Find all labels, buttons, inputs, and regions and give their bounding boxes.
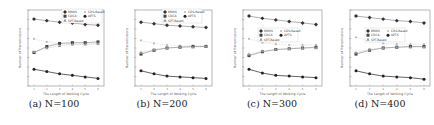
svg-text:SPT-Based: SPT-Based [168, 19, 184, 23]
svg-text:Number of Transmissions: Number of Transmissions [18, 28, 22, 68]
chart-panel-c: 123456The Length of Working CycleNumber … [218, 0, 326, 125]
svg-text:The Length of Working Cycle: The Length of Working Cycle [42, 92, 89, 96]
svg-text:6: 6 [423, 88, 425, 91]
chart-panel-a: 123456The Length of Working CycleNumber … [0, 0, 108, 125]
svg-text:Number of Transmissions: Number of Transmissions [233, 28, 237, 68]
svg-text:4: 4 [179, 88, 181, 91]
panel-caption: (c) N=300 [218, 98, 326, 109]
svg-text:3: 3 [382, 88, 384, 91]
svg-text:4: 4 [396, 88, 398, 91]
chart-panel-d: 123456The Length of Working CycleNumber … [326, 0, 434, 125]
svg-text:3: 3 [59, 88, 61, 91]
chart-panel-b: 123456The Length of Working CycleNumber … [108, 0, 216, 125]
svg-text:1: 1 [33, 88, 35, 91]
svg-text:The Length of Working Cycle: The Length of Working Cycle [366, 92, 413, 96]
svg-text:6: 6 [205, 88, 207, 91]
svg-text:SPT-Based: SPT-Based [264, 38, 280, 42]
svg-text:3: 3 [166, 88, 168, 91]
svg-text:5: 5 [192, 88, 194, 91]
svg-text:2: 2 [262, 88, 264, 91]
panel-caption: (d) N=400 [326, 98, 434, 109]
svg-text:6: 6 [315, 88, 317, 91]
panel-caption: (b) N=200 [108, 98, 216, 109]
svg-text:1: 1 [248, 88, 250, 91]
svg-text:5: 5 [302, 88, 304, 91]
svg-text:4: 4 [72, 88, 74, 91]
svg-text:4: 4 [288, 88, 290, 91]
svg-text:SPT-Based: SPT-Based [371, 38, 387, 42]
svg-text:APTS: APTS [88, 14, 96, 18]
svg-text:SPT-Based: SPT-Based [68, 19, 84, 23]
svg-text:The Length of Working Cycle: The Length of Working Cycle [259, 92, 306, 96]
svg-text:APTS: APTS [284, 33, 292, 37]
svg-text:2: 2 [369, 88, 371, 91]
svg-text:5: 5 [410, 88, 412, 91]
svg-text:3: 3 [275, 88, 277, 91]
svg-text:APTS: APTS [391, 33, 399, 37]
svg-text:Number of Transmissions: Number of Transmissions [125, 28, 129, 68]
svg-text:Number of Transmissions: Number of Transmissions [340, 28, 344, 68]
svg-text:2: 2 [46, 88, 48, 91]
svg-text:1: 1 [355, 88, 357, 91]
svg-text:APTS: APTS [188, 14, 196, 18]
svg-text:5: 5 [84, 88, 86, 91]
panel-caption: (a) N=100 [0, 98, 108, 109]
svg-text:The Length of Working Cycle: The Length of Working Cycle [150, 92, 197, 96]
svg-text:2: 2 [153, 88, 155, 91]
svg-text:1: 1 [140, 88, 142, 91]
svg-text:6: 6 [97, 88, 99, 91]
